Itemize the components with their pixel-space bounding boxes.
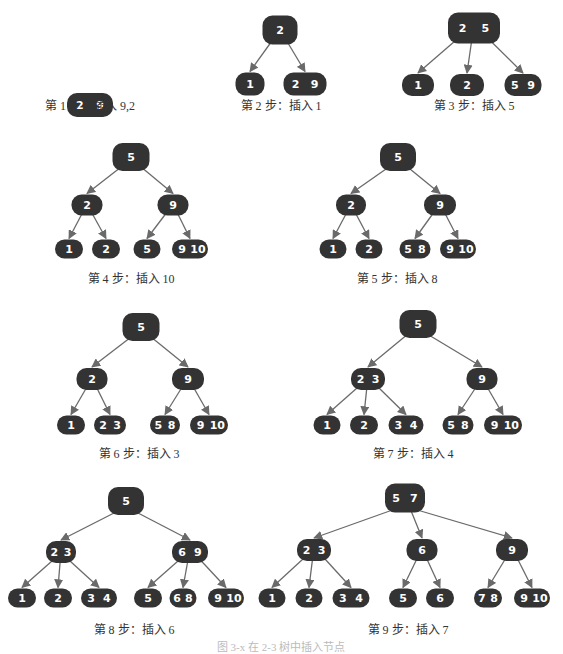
node-key: 2 bbox=[360, 419, 368, 432]
node-key: 6 bbox=[418, 544, 426, 557]
edge-arrow bbox=[327, 388, 357, 415]
node-key: 2 bbox=[54, 592, 62, 605]
tree-node: 58 bbox=[400, 240, 431, 259]
node-key: 8 bbox=[185, 592, 193, 605]
tree-node: 1 bbox=[55, 240, 83, 259]
edge-arrow bbox=[419, 511, 512, 539]
node-key: 6 bbox=[436, 592, 444, 605]
tree-node: 2 bbox=[77, 368, 108, 390]
node-key: 5 bbox=[447, 419, 455, 432]
node-key: 3 bbox=[87, 592, 95, 605]
edge-arrow bbox=[403, 559, 417, 588]
node-key: 2 bbox=[347, 199, 355, 212]
node-key: 2 bbox=[305, 592, 313, 605]
edge-arrow bbox=[178, 214, 190, 239]
node-key: 5 bbox=[414, 318, 422, 331]
node-key: 9 bbox=[194, 546, 202, 559]
node-key: 5 bbox=[137, 321, 145, 334]
tree-node: 5 bbox=[108, 487, 144, 515]
node-key: 1 bbox=[65, 243, 73, 256]
tree-node: 78 bbox=[474, 589, 502, 608]
node-key: 6 bbox=[178, 546, 186, 559]
node-key: 3 bbox=[64, 546, 72, 559]
tree-node: 5 bbox=[380, 143, 416, 171]
node-key: 5 bbox=[404, 243, 412, 256]
edge-arrow bbox=[87, 169, 119, 194]
tree-node: 57 bbox=[385, 484, 425, 513]
edge-arrow bbox=[488, 388, 503, 415]
edge-arrow bbox=[368, 336, 406, 367]
node-key: 9 bbox=[478, 373, 486, 386]
node-key: 7 bbox=[410, 492, 418, 505]
edge-arrow bbox=[70, 561, 99, 588]
edge-arrow bbox=[71, 388, 86, 415]
node-key: 2 bbox=[357, 373, 365, 386]
node-key: 9 bbox=[520, 592, 528, 605]
node-key: 10 bbox=[532, 592, 548, 605]
node-key: 10 bbox=[210, 419, 226, 432]
tree-node: 58 bbox=[150, 416, 180, 435]
tree-node: 2 bbox=[263, 16, 298, 45]
node-key: 9 bbox=[436, 199, 444, 212]
tree-node: 2 bbox=[92, 240, 120, 259]
tree-node: 34 bbox=[81, 589, 117, 608]
tree-node: 910 bbox=[208, 589, 244, 608]
node-key: 1 bbox=[414, 79, 422, 92]
node-key: 5 bbox=[144, 592, 152, 605]
tree-node: 23 bbox=[94, 416, 126, 435]
tree-node: 23 bbox=[297, 539, 331, 561]
tree-node: 6 bbox=[407, 539, 438, 561]
node-key: 1 bbox=[268, 592, 276, 605]
node-key: 3 bbox=[113, 419, 121, 432]
edge-arrow bbox=[250, 43, 271, 72]
edge-arrow bbox=[418, 42, 454, 74]
node-key: 3 bbox=[318, 544, 326, 557]
edge-arrow bbox=[272, 559, 303, 588]
tree-node: 2 bbox=[350, 416, 378, 435]
node-key: 1 bbox=[329, 243, 337, 256]
tree-node: 910 bbox=[484, 416, 522, 435]
node-key: 2 bbox=[88, 373, 96, 386]
edge-arrow bbox=[410, 169, 440, 194]
node-key: 8 bbox=[418, 243, 426, 256]
node-key: 10 bbox=[458, 243, 474, 256]
tree-node: 2 bbox=[356, 240, 383, 259]
edge-arrow bbox=[288, 43, 305, 72]
node-key: 9 bbox=[446, 243, 454, 256]
node-key: 10 bbox=[504, 419, 520, 432]
edge-arrow bbox=[148, 561, 178, 588]
edge-arrow bbox=[458, 388, 475, 415]
tree-node: 1 bbox=[57, 416, 85, 435]
node-key: 9 bbox=[508, 544, 516, 557]
node-key: 5 bbox=[511, 79, 519, 92]
edge-arrow bbox=[445, 214, 458, 239]
node-key: 5 bbox=[143, 243, 151, 256]
step-label: 第 2 步：插入 1 bbox=[241, 96, 322, 114]
edge-arrow bbox=[201, 561, 226, 588]
node-key: 1 bbox=[67, 419, 75, 432]
tree-node: 9 bbox=[496, 539, 528, 561]
tree-node: 5 bbox=[134, 589, 162, 608]
tree-node: 2 bbox=[450, 74, 484, 96]
tree-node: 6 bbox=[426, 589, 454, 608]
tree-node: 1 bbox=[8, 589, 36, 608]
node-key: 1 bbox=[323, 419, 331, 432]
tree-node: 59 bbox=[505, 74, 542, 96]
step-label: 第 9 步：插入 7 bbox=[368, 620, 449, 638]
tree-node: 1 bbox=[320, 240, 347, 259]
edge-arrow bbox=[165, 388, 182, 415]
node-key: 8 bbox=[168, 419, 176, 432]
tree-node: 34 bbox=[333, 589, 370, 608]
tree-node: 5 bbox=[389, 589, 417, 608]
tree-node: 1 bbox=[402, 74, 434, 96]
tree-node: 910 bbox=[172, 240, 208, 259]
node-key: 5 bbox=[392, 492, 400, 505]
node-key: 9 bbox=[491, 419, 499, 432]
node-key: 1 bbox=[18, 592, 26, 605]
step-label: 第 3 步：插入 5 bbox=[434, 96, 515, 114]
figure-caption: 图 3-x 在 2-3 树中插入节点 bbox=[217, 638, 345, 654]
tree-node: 910 bbox=[190, 416, 228, 435]
edge-arrow bbox=[427, 559, 440, 588]
node-key: 9 bbox=[311, 78, 319, 91]
tree-node: 9 bbox=[467, 368, 498, 390]
